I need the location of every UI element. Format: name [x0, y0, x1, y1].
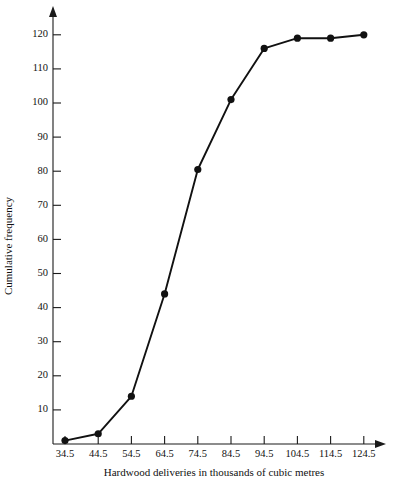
data-point: [194, 166, 201, 173]
x-tick-label: 34.5: [56, 448, 74, 459]
data-point: [128, 393, 135, 400]
x-axis-group: 34.544.554.564.574.584.594.5104.5114.512…: [53, 436, 386, 478]
data-point: [61, 437, 68, 444]
y-tick-label: 120: [32, 28, 48, 39]
x-tick-label: 44.5: [89, 448, 107, 459]
x-tick-label: 94.5: [255, 448, 273, 459]
y-tick-label: 10: [38, 403, 49, 414]
x-axis-arrow-icon: [375, 440, 386, 448]
y-tick-label: 90: [38, 131, 49, 142]
y-tick-label: 20: [38, 369, 49, 380]
x-tick-label: 104.5: [286, 448, 310, 459]
y-axis-title: Cumulative frequency: [2, 196, 14, 295]
y-axis-ticks: 102030405060708090100110120: [32, 28, 61, 414]
x-tick-label: 74.5: [189, 448, 207, 459]
data-point: [360, 31, 367, 38]
cumulative-frequency-curve: [65, 35, 364, 441]
data-point: [161, 290, 168, 297]
y-tick-label: 30: [38, 335, 49, 346]
data-series-group: [61, 31, 367, 444]
y-tick-label: 100: [32, 96, 48, 107]
x-axis-ticks: 34.544.554.564.574.584.594.5104.5114.512…: [56, 436, 376, 459]
data-point: [95, 430, 102, 437]
y-tick-label: 70: [38, 199, 49, 210]
data-point: [327, 35, 334, 42]
cumulative-frequency-chart: 102030405060708090100110120 Cumulative f…: [0, 0, 393, 491]
y-axis-group: 102030405060708090100110120 Cumulative f…: [2, 6, 61, 444]
data-point: [227, 96, 234, 103]
y-tick-label: 40: [38, 301, 49, 312]
y-tick-label: 80: [38, 165, 49, 176]
chart-canvas: 102030405060708090100110120 Cumulative f…: [0, 0, 393, 491]
x-tick-label: 54.5: [122, 448, 140, 459]
y-tick-label: 60: [38, 233, 49, 244]
x-tick-label: 114.5: [319, 448, 342, 459]
data-point: [261, 45, 268, 52]
x-axis-title: Hardwood deliveries in thousands of cubi…: [104, 466, 325, 478]
data-point-markers: [61, 31, 367, 444]
data-point: [294, 35, 301, 42]
y-tick-label: 50: [38, 267, 49, 278]
x-tick-label: 124.5: [352, 448, 376, 459]
y-tick-label: 110: [33, 62, 48, 73]
x-tick-label: 64.5: [155, 448, 173, 459]
y-axis-arrow-icon: [49, 6, 57, 17]
x-tick-label: 84.5: [222, 448, 240, 459]
